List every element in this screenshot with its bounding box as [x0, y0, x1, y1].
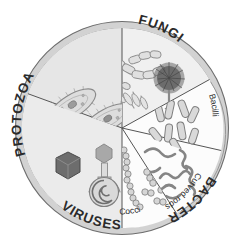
coiled-virus — [90, 178, 119, 207]
microorganism-wheel-figure: PROTOZOA FUNGI BACTERIA VIRUSES Bacilli … — [0, 0, 236, 250]
wheel-svg: PROTOZOA FUNGI BACTERIA VIRUSES Bacilli … — [0, 0, 236, 250]
